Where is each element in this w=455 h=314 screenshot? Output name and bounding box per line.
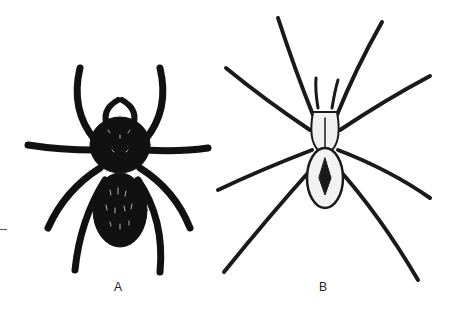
panel-label-b: B bbox=[319, 280, 327, 294]
spider-illustration-figure: A B bbox=[0, 0, 455, 314]
spider-b-drawing bbox=[218, 18, 430, 280]
panel-label-a: A bbox=[114, 280, 122, 294]
spider-a-drawing bbox=[28, 68, 208, 272]
margin-tick-mark bbox=[0, 229, 7, 230]
spider-drawings bbox=[0, 0, 455, 314]
